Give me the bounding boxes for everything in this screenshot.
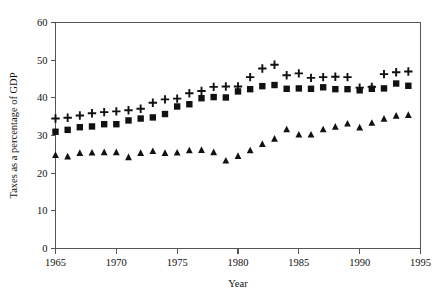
data-point-square <box>223 94 229 100</box>
data-point-triangle <box>259 140 266 147</box>
data-point-square <box>271 82 277 88</box>
y-tick-label: 50 <box>37 55 48 66</box>
data-point-plus <box>136 105 144 113</box>
data-point-triangle <box>89 149 96 156</box>
data-point-square <box>247 86 253 92</box>
data-point-triangle <box>332 123 339 130</box>
data-markers <box>51 60 412 163</box>
data-point-square <box>162 111 168 117</box>
data-point-triangle <box>52 151 59 158</box>
data-point-triangle <box>162 149 169 156</box>
data-point-triangle <box>356 124 363 131</box>
y-tick-label: 30 <box>37 130 48 141</box>
data-point-plus <box>149 99 157 107</box>
data-point-triangle <box>125 154 132 161</box>
data-point-plus <box>161 95 169 103</box>
y-tick-label: 20 <box>37 168 48 179</box>
data-point-plus <box>124 106 132 114</box>
data-point-plus <box>380 70 388 78</box>
data-point-plus <box>319 73 327 81</box>
data-point-triangle <box>101 149 108 156</box>
data-point-triangle <box>222 157 229 164</box>
y-tick-label: 10 <box>37 205 48 216</box>
data-point-square <box>89 123 95 129</box>
data-point-square <box>101 121 107 127</box>
data-point-triangle <box>137 149 144 156</box>
data-point-triangle <box>113 149 120 156</box>
data-point-triangle <box>295 131 302 138</box>
axis-ticks <box>51 23 421 254</box>
y-tick-label: 0 <box>42 243 47 254</box>
data-point-plus <box>76 111 84 119</box>
data-point-square <box>356 87 362 93</box>
data-point-plus <box>185 89 193 97</box>
data-point-square <box>77 124 83 130</box>
data-point-triangle <box>405 111 412 118</box>
data-point-plus <box>197 87 205 95</box>
data-point-square <box>64 127 70 133</box>
x-tick-label: 1975 <box>167 257 188 268</box>
data-point-square <box>125 117 131 123</box>
data-point-square <box>137 115 143 121</box>
data-point-triangle <box>368 119 375 126</box>
data-point-square <box>113 121 119 127</box>
data-point-square <box>210 94 216 100</box>
data-point-triangle <box>210 149 217 156</box>
x-tick-label: 1990 <box>349 257 370 268</box>
data-point-triangle <box>271 135 278 142</box>
data-point-square <box>405 83 411 89</box>
data-point-plus <box>209 83 217 91</box>
data-point-plus <box>331 73 339 81</box>
data-point-square <box>369 86 375 92</box>
data-point-triangle <box>381 115 388 122</box>
data-point-square <box>186 101 192 107</box>
data-point-plus <box>343 73 351 81</box>
x-tick-label: 1970 <box>106 257 127 268</box>
data-point-plus <box>307 74 315 82</box>
data-point-plus <box>173 94 181 102</box>
data-point-square <box>344 86 350 92</box>
data-point-plus <box>295 69 303 77</box>
data-point-plus <box>222 82 230 90</box>
data-point-plus <box>404 67 412 75</box>
x-tick-label: 1980 <box>228 257 249 268</box>
data-point-square <box>393 80 399 86</box>
data-point-plus <box>258 64 266 72</box>
data-point-plus <box>63 114 71 122</box>
data-point-square <box>381 85 387 91</box>
data-point-triangle <box>235 152 242 159</box>
axes <box>56 23 421 249</box>
x-tick-label: 1965 <box>45 257 66 268</box>
data-point-triangle <box>149 147 156 154</box>
axis-tick-labels: 0102030405060196519701975198019851990199… <box>37 17 431 267</box>
data-point-triangle <box>393 112 400 119</box>
x-tick-label: 1995 <box>410 257 431 268</box>
data-point-plus <box>282 71 290 79</box>
data-point-plus <box>246 73 254 81</box>
data-point-triangle <box>247 147 254 154</box>
data-point-square <box>283 86 289 92</box>
data-point-triangle <box>283 126 290 133</box>
y-axis-title: Taxes as a percentage of GDP <box>8 72 19 198</box>
data-point-triangle <box>186 147 193 154</box>
data-point-triangle <box>64 153 71 160</box>
y-tick-label: 40 <box>37 92 48 103</box>
data-point-plus <box>270 60 278 68</box>
data-point-triangle <box>76 149 83 156</box>
data-point-triangle <box>344 120 351 127</box>
data-point-square <box>150 114 156 120</box>
data-point-plus <box>392 68 400 76</box>
data-point-triangle <box>174 149 181 156</box>
data-point-triangle <box>308 131 315 138</box>
data-point-plus <box>112 107 120 115</box>
data-point-square <box>235 88 241 94</box>
scatter-plot: 0102030405060196519701975198019851990199… <box>0 0 441 307</box>
data-point-square <box>174 103 180 109</box>
data-point-square <box>259 83 265 89</box>
data-point-triangle <box>320 126 327 133</box>
x-axis-title: Year <box>228 278 248 289</box>
y-tick-label: 60 <box>37 17 48 28</box>
data-point-triangle <box>198 146 205 153</box>
chart-figure: 0102030405060196519701975198019851990199… <box>0 0 441 307</box>
data-point-square <box>52 129 58 135</box>
